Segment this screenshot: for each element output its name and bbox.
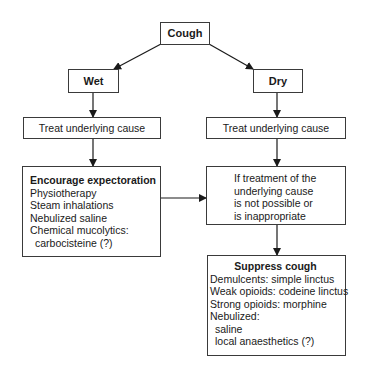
node-dry: Dry	[253, 69, 303, 93]
node-condition: If treatment of the underlying cause is …	[206, 166, 346, 225]
node-treat-wet-label: Treat underlying cause	[39, 122, 145, 135]
node-condition-line: underlying cause	[234, 185, 345, 198]
edge-cough-dry	[209, 44, 253, 69]
node-suppress-title: Suppress cough	[210, 260, 345, 273]
node-expectoration-title: Encourage expectoration	[30, 174, 160, 187]
node-dry-label: Dry	[269, 75, 287, 88]
node-condition-line: is inappropriate	[234, 210, 345, 223]
node-suppress-line: Strong opioids: morphine	[210, 298, 345, 311]
node-treat-dry-label: Treat underlying cause	[223, 122, 329, 135]
node-suppress-line: Demulcents: simple linctus	[210, 273, 345, 286]
node-cough-label: Cough	[168, 27, 203, 40]
node-expectoration-line: Chemical mucolytics:	[30, 224, 160, 237]
node-expectoration: Encourage expectoration Physiotherapy St…	[22, 166, 161, 257]
node-treat-dry: Treat underlying cause	[206, 117, 346, 139]
node-expectoration-line: carbocisteine (?)	[30, 237, 160, 250]
node-treat-wet: Treat underlying cause	[23, 117, 161, 139]
node-expectoration-line: Steam inhalations	[30, 199, 160, 212]
node-suppress-line: local anaesthetics (?)	[210, 335, 345, 348]
edge-cough-wet	[114, 44, 161, 69]
node-wet-label: Wet	[84, 75, 104, 88]
node-wet: Wet	[68, 69, 119, 93]
node-suppress: Suppress cough Demulcents: simple linctu…	[207, 255, 346, 356]
node-suppress-line: saline	[210, 323, 345, 336]
node-expectoration-line: Nebulized saline	[30, 212, 160, 225]
node-condition-line: If treatment of the	[234, 172, 345, 185]
node-condition-line: is not possible or	[234, 197, 345, 210]
node-suppress-line: Weak opioids: codeine linctus	[210, 285, 345, 298]
node-cough: Cough	[160, 22, 210, 45]
node-expectoration-line: Physiotherapy	[30, 187, 160, 200]
node-suppress-line: Nebulized:	[210, 310, 345, 323]
